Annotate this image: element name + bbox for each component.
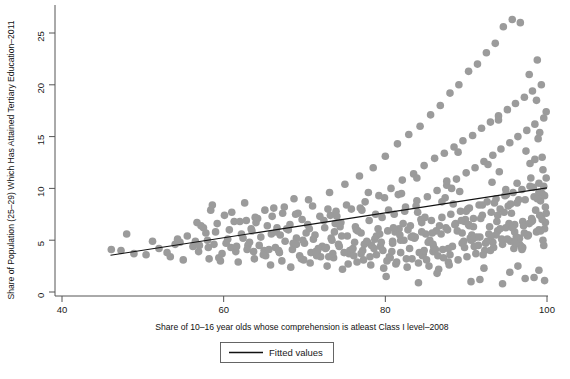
scatter-point [508,209,516,217]
scatter-point [434,252,442,260]
scatter-point [476,276,484,284]
scatter-point [458,217,466,225]
scatter-point [542,174,550,182]
scatter-point [310,235,318,243]
scatter-point [379,247,387,255]
scatter-point [202,229,210,237]
scatter-point [541,277,549,285]
scatter-point [341,180,349,188]
scatter-point [539,166,547,174]
scatter-point [142,251,150,259]
scatter-point [382,152,390,160]
scatter-point [449,200,457,208]
scatter-point [338,232,346,240]
scatter-point [527,174,535,182]
scatter-point [467,278,475,286]
scatter-point [369,164,377,172]
scatter-point [361,198,369,206]
scatter-point [363,237,371,245]
scatter-point [390,224,398,232]
scatter-point [504,235,512,243]
scatter-point [343,201,351,209]
scatter-point [479,251,487,259]
scatter-point [487,232,495,240]
scatter-point [462,207,470,215]
scatter-point [325,253,333,261]
scatter-point [406,245,414,253]
y-axis-title: Share of Population (25–29) Which Has At… [6,20,16,299]
scatter-point [530,274,538,282]
scatter-point [438,214,446,222]
scatter-point [487,208,495,216]
scatter-point [305,196,313,204]
legend-label-fitted-values: Fitted values [269,347,323,358]
scatter-point [496,168,504,176]
scatter-point [448,185,456,193]
scatter-point [287,263,295,271]
scatter-point [222,240,230,248]
scatter-point [500,208,508,216]
scatter-point [429,241,437,249]
scatter-point [433,270,441,278]
scatter-point [428,217,436,225]
scatter-point [465,221,473,229]
scatter-point [443,177,451,185]
y-tick-label-0: 0 [35,293,46,298]
scatter-point [366,253,374,261]
scatter-point [532,206,540,214]
scatter-point [514,262,522,270]
scatter-point [486,223,494,231]
scatter-point [512,240,520,248]
scatter-point [497,145,505,153]
scatter-point [290,195,298,203]
scatter-point [528,218,536,226]
scatter-point [437,102,445,110]
y-tick-label-10: 10 [35,187,46,198]
chart-figure: 0510152025406080100Share of Population (… [0,0,570,379]
scatter-point [399,220,407,228]
scatter-point [264,222,272,230]
scatter-point [446,89,454,97]
scatter-point [444,226,452,234]
scatter-point [388,248,396,256]
scatter-point [453,175,461,183]
scatter-point [461,244,469,252]
scatter-point [418,228,426,236]
scatter-point [447,211,455,219]
scatter-point [365,217,373,225]
scatter-point [445,261,453,269]
scatter-point [354,227,362,235]
scatter-point [398,190,406,198]
scatter-point [470,243,478,251]
scatter-point [226,226,234,234]
scatter-point [542,209,550,217]
scatter-point [403,263,411,271]
scatter-point [454,148,462,156]
scatter-point [513,179,521,187]
x-tick-label-100: 100 [539,304,555,315]
scatter-point [416,122,424,130]
scatter-point [427,111,435,119]
scatter-point [499,280,507,288]
scatter-point [491,40,499,48]
scatter-point [306,225,314,233]
scatter-point [333,213,341,221]
scatter-point [370,245,378,253]
scatter-point [255,242,263,250]
scatter-point [504,106,512,114]
scatter-point [261,206,269,214]
scatter-point [437,230,445,238]
scatter-point [472,250,480,258]
scatter-point [462,169,470,177]
scatter-point [404,226,412,234]
scatter-point [322,245,330,253]
scatter-point [280,203,288,211]
scatter-point [336,223,344,231]
scatter-point [523,127,531,135]
scatter-point [507,200,515,208]
scatter-point [394,140,402,148]
scatter-point [378,214,386,222]
scatter-point [465,68,473,76]
scatter-point [293,241,301,249]
scatter-point [536,129,544,137]
